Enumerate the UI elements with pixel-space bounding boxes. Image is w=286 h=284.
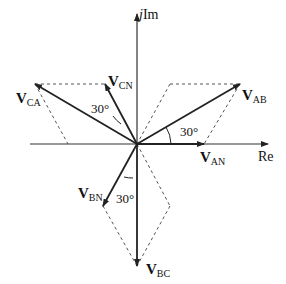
angle-arcs [113, 116, 171, 178]
phasor-canvas [0, 0, 286, 284]
angle-label-an-ab: 30° [180, 125, 198, 138]
label-V_AN: VAN [200, 150, 225, 167]
angle-label-cn-ca: 30° [91, 102, 109, 115]
angle-label-bn-bc: 30° [116, 192, 134, 205]
label-V_BC: VBC [146, 262, 170, 279]
label-V_BN: VBN [78, 186, 103, 203]
label-V_CN: VCN [108, 74, 133, 91]
real-axis-label: Re [258, 150, 274, 164]
phasor-diagram: jIm Re VCN VCA VAB VAN VBN VBC 30° 30° 3… [0, 0, 286, 284]
label-V_CA: VCA [16, 91, 41, 108]
label-V_AB: VAB [242, 88, 267, 105]
imag-axis-label: jIm [139, 8, 158, 22]
